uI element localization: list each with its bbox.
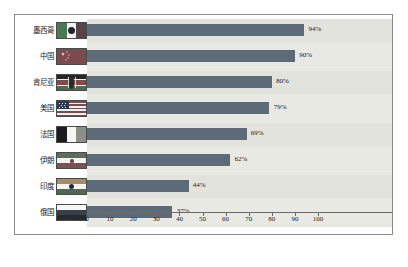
bar-mexico	[87, 24, 304, 36]
x-tick-label: 80	[268, 216, 275, 223]
bar-value-kenya: 80%	[276, 78, 289, 85]
bar-france	[87, 128, 247, 140]
plot-area: 94% 90% 80% 79% 69% 62% 44% 37%	[87, 19, 392, 227]
category-label-india: 印度	[40, 183, 56, 191]
flag-china-icon	[56, 48, 87, 65]
category-label-france: 法国	[40, 131, 56, 139]
category-row: 印度	[15, 175, 87, 198]
x-tick-label: 50	[199, 216, 206, 223]
x-tick-label: 70	[245, 216, 252, 223]
flag-usa-icon	[56, 100, 87, 117]
x-tick-label: 40	[176, 216, 183, 223]
bar-china	[87, 50, 295, 62]
flag-mexico-icon	[56, 22, 87, 39]
x-tick-label: 10	[107, 216, 114, 223]
bar-value-usa: 79%	[274, 104, 287, 111]
bar-value-iran: 62%	[235, 156, 248, 163]
bars-container: 94% 90% 80% 79% 69% 62% 44% 37%	[87, 19, 392, 213]
x-axis: 0 10 20 30 40 50 60 70 80 90 100	[87, 212, 392, 227]
x-tick-label: 30	[153, 216, 160, 223]
flag-iran-icon	[56, 152, 87, 169]
flag-kenya-icon	[56, 74, 87, 91]
category-label-russia: 俄国	[40, 209, 56, 217]
flag-india-icon	[56, 178, 87, 195]
category-label-mexico: 墨西哥	[33, 27, 56, 35]
category-row: 肯尼亚	[15, 71, 87, 94]
flag-france-icon	[56, 126, 87, 143]
bar-kenya	[87, 76, 272, 88]
x-tick-label: 100	[313, 216, 324, 223]
category-row: 中国	[15, 45, 87, 68]
x-tick-label: 90	[291, 216, 298, 223]
bar-usa	[87, 102, 269, 114]
x-tick-label: 60	[222, 216, 229, 223]
x-tick-label: 0	[85, 216, 89, 223]
category-label-kenya: 肯尼亚	[33, 79, 56, 87]
figure-caption	[0, 250, 408, 267]
category-label-china: 中国	[40, 53, 56, 61]
flag-russia-icon	[56, 204, 87, 221]
category-row: 伊朗	[15, 149, 87, 172]
chart-figure: 墨西哥 中国 肯尼亚	[14, 14, 393, 235]
bar-value-mexico: 94%	[308, 26, 321, 33]
category-row: 美国	[15, 97, 87, 120]
bar-iran	[87, 154, 230, 166]
bar-india	[87, 180, 189, 192]
category-label-iran: 伊朗	[40, 157, 56, 165]
category-axis: 墨西哥 中国 肯尼亚	[15, 19, 87, 227]
bar-value-france: 69%	[251, 130, 264, 137]
category-row: 俄国	[15, 201, 87, 224]
category-label-usa: 美国	[40, 105, 56, 113]
bar-value-india: 44%	[193, 182, 206, 189]
bar-value-china: 90%	[299, 52, 312, 59]
x-tick-label: 20	[130, 216, 137, 223]
category-row: 墨西哥	[15, 19, 87, 42]
category-row: 法国	[15, 123, 87, 146]
